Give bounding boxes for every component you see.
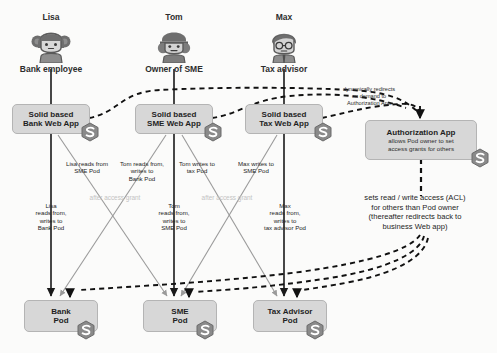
actor-role: Owner of SME: [126, 64, 222, 74]
node-title-line1: Solid based: [29, 110, 74, 120]
edge-label-lisa-bank-pod: Lisa reads from, writes to Bank Pod: [20, 202, 82, 232]
solid-logo-icon: [80, 122, 100, 142]
edge-label-tom-bank-pod: Tom reads from, writes to Bank Pod: [111, 160, 173, 182]
actor-name: Lisa: [3, 12, 99, 22]
node-title-line1: Solid based: [152, 110, 197, 120]
actor-tom: Tom Owner of SME: [126, 12, 222, 74]
solid-logo-icon: [305, 320, 325, 340]
solid-logo-icon: [313, 122, 333, 142]
edge-label-dynamic-redirect: dynamically redirects on demand to Autho…: [328, 86, 410, 106]
node-title-line1: SME: [171, 307, 188, 317]
node-title-line2: Pod: [53, 316, 68, 326]
solid-logo-icon: [76, 320, 96, 340]
node-authorization-app[interactable]: Authorization App allows Pod owner to se…: [365, 120, 477, 160]
avatar-tom-icon: [154, 23, 194, 63]
avatar-max-icon: [264, 23, 304, 63]
actor-name: Max: [236, 12, 332, 22]
node-sme-web-app[interactable]: Solid based SME Web App: [135, 104, 213, 134]
solid-logo-icon: [470, 148, 490, 168]
actor-role: Tax advisor: [236, 64, 332, 74]
node-desc-line2: access grants for others: [388, 145, 454, 153]
node-title-line2: Tax Web App: [259, 119, 309, 129]
edge-label-max-sme-pod: Max writes to SME Pod: [226, 160, 286, 175]
actor-lisa: Lisa Bank: [3, 12, 99, 74]
edge-label-after-access-grant-left: after access grant: [80, 194, 150, 201]
edge-label-max-tax-pod: Max reads from, writes to tax advisor Po…: [250, 202, 320, 232]
edge-label-tom-tax-pod: Tom writes to tax Pod: [168, 160, 226, 175]
node-title-line2: SME Web App: [147, 119, 201, 129]
edge-label-acl-description: sets read / write access (ACL) for other…: [336, 193, 494, 231]
avatar-lisa-icon: [31, 23, 71, 63]
node-title-line2: Pod: [282, 316, 297, 326]
edge-label-after-access-grant-right: after access grant: [192, 194, 262, 201]
solid-logo-icon: [195, 320, 215, 340]
node-title-line1: Bank: [51, 307, 71, 317]
diagram-canvas: Lisa Bank: [0, 0, 497, 353]
node-bank-web-app[interactable]: Solid based Bank Web App: [12, 104, 90, 134]
node-title-line2: Pod: [172, 316, 187, 326]
actor-role: Bank employee: [3, 64, 99, 74]
node-title-line1: Solid based: [262, 110, 307, 120]
node-title-line2: Bank Web App: [23, 119, 79, 129]
solid-logo-icon: [203, 122, 223, 142]
actor-max: Max Tax advisor: [236, 12, 332, 74]
node-title-line1: Tax Advisor: [268, 307, 313, 317]
node-title: Authorization App: [386, 128, 455, 138]
edge-label-tom-sme-pod: Tom reads from, writes to SME Pod: [143, 202, 205, 232]
node-tax-web-app[interactable]: Solid based Tax Web App: [245, 104, 323, 134]
node-desc-line1: allows Pod owner to set: [388, 137, 453, 145]
actor-name: Tom: [126, 12, 222, 22]
